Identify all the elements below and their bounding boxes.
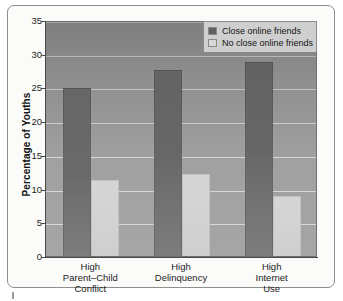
x-tick-label-line: Delinquency bbox=[131, 272, 231, 283]
y-tick-label: 25 bbox=[20, 83, 42, 93]
x-tick-label-line: Use bbox=[222, 283, 322, 294]
bar-no-close-online-friends-group-3 bbox=[273, 196, 301, 256]
figure-container: Percentage of Youths 05101520253035 High… bbox=[0, 0, 343, 301]
x-tick-label-group-2: HighDelinquency bbox=[131, 261, 231, 283]
plot-area bbox=[45, 21, 317, 257]
bar-no-close-online-friends-group-2 bbox=[182, 174, 210, 256]
legend-label-no-close-online-friends: No close online friends bbox=[222, 38, 313, 49]
bar-no-close-online-friends-group-1 bbox=[91, 180, 119, 256]
y-axis-line bbox=[45, 21, 46, 258]
y-tick-label: 30 bbox=[20, 50, 42, 60]
y-tick-mark bbox=[41, 223, 45, 224]
x-tick-label-line: Parent–Child bbox=[40, 272, 140, 283]
legend-swatch-icon-no-close-online-friends bbox=[208, 39, 217, 47]
bars-layer bbox=[46, 22, 316, 256]
y-tick-mark bbox=[41, 88, 45, 89]
y-tick-mark bbox=[41, 156, 45, 157]
x-tick-label-line: High bbox=[222, 261, 322, 272]
y-tick-label: 5 bbox=[20, 218, 42, 228]
x-tick-label-line: High bbox=[131, 261, 231, 272]
y-tick-mark bbox=[41, 190, 45, 191]
x-tick-label-group-1: HighParent–ChildConflict bbox=[40, 261, 140, 295]
y-tick-label: 35 bbox=[20, 16, 42, 26]
x-tick-label-line: Conflict bbox=[40, 283, 140, 294]
x-tick-label-line: Internet bbox=[222, 272, 322, 283]
bar-close-online-friends-group-2 bbox=[154, 70, 182, 256]
legend-item-close-online-friends[interactable]: Close online friends bbox=[208, 25, 312, 37]
x-axis-line bbox=[45, 257, 318, 258]
x-tick-label-group-3: HighInternetUse bbox=[222, 261, 322, 295]
y-tick-mark bbox=[41, 21, 45, 22]
y-tick-label: 20 bbox=[20, 117, 42, 127]
legend-label-close-online-friends: Close online friends bbox=[222, 26, 301, 37]
bar-close-online-friends-group-3 bbox=[245, 62, 273, 256]
y-axis-ticks: 05101520253035 bbox=[15, 0, 42, 301]
y-tick-label: 15 bbox=[20, 151, 42, 161]
bar-close-online-friends-group-1 bbox=[63, 88, 91, 256]
x-tick-label-line: High bbox=[40, 261, 140, 272]
y-tick-mark bbox=[41, 257, 45, 258]
y-tick-mark bbox=[41, 55, 45, 56]
y-tick-label: 10 bbox=[20, 185, 42, 195]
legend-item-no-close-online-friends[interactable]: No close online friends bbox=[208, 37, 312, 49]
scan-artifact-tick bbox=[12, 292, 14, 299]
legend-swatch-icon-close-online-friends bbox=[208, 27, 217, 35]
chart-legend: Close online friends No close online fri… bbox=[203, 21, 317, 53]
y-tick-mark bbox=[41, 122, 45, 123]
y-tick-label: 0 bbox=[20, 252, 42, 262]
